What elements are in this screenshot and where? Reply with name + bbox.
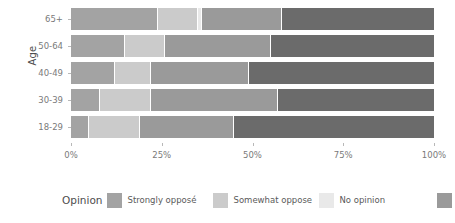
x-axis-tick-label: 25% xyxy=(152,150,171,160)
bar-segment xyxy=(125,35,165,57)
legend-item-label: Strongly opposé xyxy=(128,195,197,205)
bar-segment xyxy=(158,8,198,30)
y-axis-tick-label: 30-39 xyxy=(9,95,63,105)
legend-title: Opinion xyxy=(62,194,107,206)
bar-segment xyxy=(89,116,140,138)
stacked-bar-chart: Age 65+50-6440-4930-3918-29 0%25%50%75%1… xyxy=(0,0,455,223)
legend-swatch-icon xyxy=(213,193,228,208)
x-axis-tick-mark xyxy=(253,143,254,146)
legend-item[interactable]: Somewhat support xyxy=(437,191,455,210)
bar-segment xyxy=(71,8,158,30)
x-axis-tick-label: 100% xyxy=(422,150,446,160)
bar-segment xyxy=(278,89,434,111)
bar-segment xyxy=(151,62,249,84)
legend-swatch-icon xyxy=(107,193,122,208)
bar-segment xyxy=(71,89,100,111)
legend-swatch-icon xyxy=(319,193,334,208)
bar-row xyxy=(71,116,434,138)
y-axis-tick-label: 18-29 xyxy=(9,122,63,132)
legend-swatch-icon xyxy=(437,193,452,208)
bar-segment xyxy=(151,89,278,111)
x-axis-tick-label: 50% xyxy=(243,150,262,160)
y-axis-tick-label: 40-49 xyxy=(9,68,63,78)
y-axis-tick-label: 50-64 xyxy=(9,41,63,51)
bar-segment xyxy=(271,35,434,57)
x-axis-tick-mark xyxy=(162,143,163,146)
bar-segment xyxy=(100,89,151,111)
bar-row xyxy=(71,8,434,30)
legend-item[interactable]: No opinion xyxy=(319,191,437,210)
bar-segment xyxy=(115,62,151,84)
x-axis-tick-label: 75% xyxy=(334,150,353,160)
bar-segment xyxy=(71,62,115,84)
bar-row xyxy=(71,89,434,111)
x-axis-tick-mark xyxy=(343,143,344,146)
x-axis-tick-mark xyxy=(434,143,435,146)
legend-item[interactable]: Somewhat oppose xyxy=(213,191,319,210)
bar-segment xyxy=(249,62,434,84)
plot-area xyxy=(71,6,434,143)
bar-segment xyxy=(165,35,270,57)
x-axis-tick-mark xyxy=(71,143,72,146)
bar-segment xyxy=(234,116,434,138)
legend-item-label: Somewhat oppose xyxy=(234,195,313,205)
x-axis: 0%25%50%75%100% xyxy=(71,143,434,163)
bar-segment xyxy=(282,8,434,30)
bar-row xyxy=(71,35,434,57)
bar-segment xyxy=(140,116,234,138)
bar-segment xyxy=(202,8,282,30)
chart-legend: Opinion Strongly opposéSomewhat opposeNo… xyxy=(62,180,452,220)
bar-segment xyxy=(71,116,89,138)
y-axis-tick-labels: 65+50-6440-4930-3918-29 xyxy=(0,6,71,143)
bar-segment xyxy=(71,35,125,57)
bar-row xyxy=(71,62,434,84)
x-axis-tick-label: 0% xyxy=(64,150,78,160)
legend-item[interactable]: Strongly opposé xyxy=(107,191,213,210)
legend-items: Strongly opposéSomewhat opposeNo opinion… xyxy=(107,191,455,210)
y-axis-tick-label: 65+ xyxy=(9,14,63,24)
legend-item-label: No opinion xyxy=(340,195,386,205)
